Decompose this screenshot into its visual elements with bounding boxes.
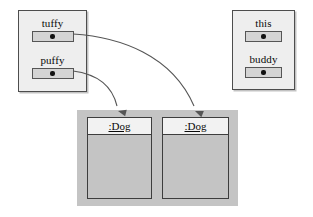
- object-box-dog-2: :Dog: [162, 117, 229, 199]
- object-header: :Dog: [163, 118, 228, 135]
- reference-slot-buddy: [245, 67, 282, 78]
- variable-label-this: this: [233, 17, 294, 29]
- object-body: [88, 135, 151, 198]
- heap-container: :Dog:Dog: [77, 110, 238, 206]
- reference-dot-buddy: [261, 70, 265, 74]
- variable-entry-this: this: [233, 17, 294, 42]
- variable-label-puffy: puffy: [19, 54, 86, 66]
- reference-slot-this: [245, 31, 282, 42]
- object-reference-diagram: :Dog:Dog tuffypuffythisbuddy: [0, 0, 313, 217]
- object-box-dog-1: :Dog: [87, 117, 152, 199]
- object-title: :Dog: [109, 120, 131, 132]
- reference-dot-puffy: [50, 71, 54, 75]
- reference-slot-puffy: [32, 68, 74, 79]
- object-header: :Dog: [88, 118, 151, 135]
- object-body: [163, 135, 228, 198]
- variable-entry-buddy: buddy: [233, 53, 294, 78]
- variable-label-tuffy: tuffy: [19, 17, 86, 29]
- variable-label-buddy: buddy: [233, 53, 294, 65]
- reference-dot-tuffy: [50, 34, 54, 38]
- object-title: :Dog: [185, 120, 207, 132]
- arrow-tuffy-to-dog2: [73, 34, 204, 117]
- variable-entry-puffy: puffy: [19, 54, 86, 79]
- right-frame: thisbuddy: [232, 10, 295, 90]
- reference-dot-this: [261, 34, 265, 38]
- variable-entry-tuffy: tuffy: [19, 17, 86, 42]
- left-frame: tuffypuffy: [18, 10, 87, 92]
- reference-slot-tuffy: [32, 31, 74, 42]
